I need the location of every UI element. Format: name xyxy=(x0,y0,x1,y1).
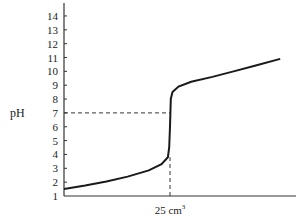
y-tick-label: 9 xyxy=(53,79,59,91)
x-tick-label: 25 cm3 xyxy=(155,203,186,216)
y-tick-label: 8 xyxy=(53,93,59,105)
y-tick-label: 14 xyxy=(47,10,59,22)
y-tick-label: 2 xyxy=(53,176,59,188)
y-tick-label: 11 xyxy=(47,52,58,64)
titration-curve-line xyxy=(64,59,280,189)
y-tick-label: 5 xyxy=(53,135,59,147)
y-tick-label: 1 xyxy=(53,190,59,202)
x-axis-ticks: 25 cm3 xyxy=(155,203,186,216)
titration-chart: 1234567891011121314 pH 25 cm3 xyxy=(0,0,300,220)
y-tick-label: 12 xyxy=(47,38,58,50)
x-tick-label-superscript: 3 xyxy=(182,203,186,211)
y-tick-label: 3 xyxy=(53,162,59,174)
y-tick-label: 6 xyxy=(53,121,59,133)
y-axis-label: pH xyxy=(10,106,25,120)
y-tick-label: 13 xyxy=(47,24,59,36)
guide-lines xyxy=(64,113,170,196)
y-tick-label: 10 xyxy=(47,65,59,77)
y-tick-label: 4 xyxy=(53,148,59,160)
y-tick-label: 7 xyxy=(53,107,59,119)
